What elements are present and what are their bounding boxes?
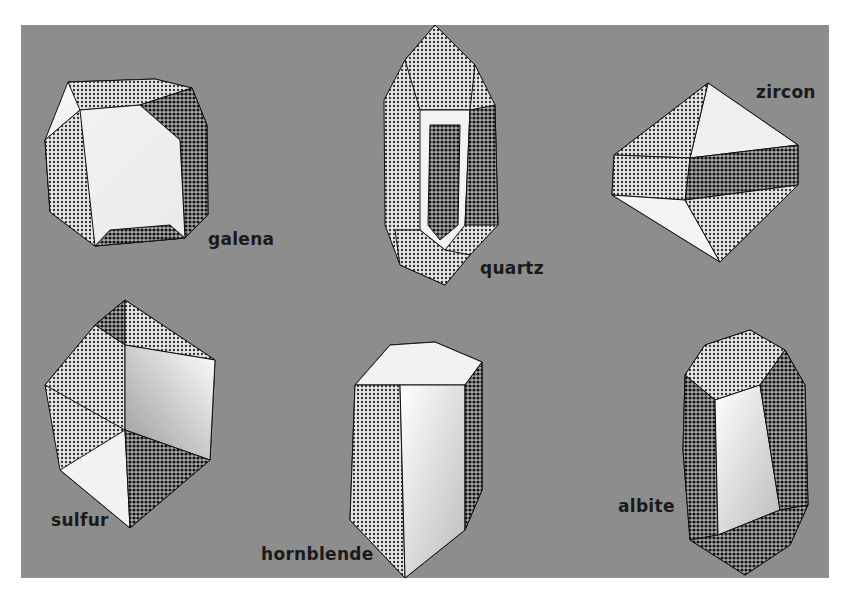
galena-crystal	[45, 79, 208, 246]
galena-label: galena	[208, 229, 274, 249]
hornblende-label: hornblende	[261, 544, 374, 564]
quartz-crystal	[384, 25, 498, 285]
zircon-crystal	[612, 83, 798, 262]
quartz-label: quartz	[480, 258, 544, 278]
albite-crystal	[683, 330, 808, 575]
albite-label: albite	[618, 496, 675, 516]
hornblende-crystal	[350, 342, 482, 578]
sulfur-label: sulfur	[51, 510, 109, 530]
crystal-drawings	[0, 0, 855, 594]
sulfur-crystal	[45, 300, 215, 528]
zircon-label: zircon	[756, 82, 816, 102]
